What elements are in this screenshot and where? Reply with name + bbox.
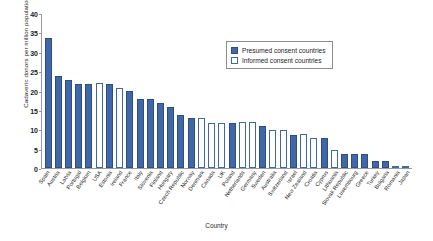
- bar-czech-republic: [177, 115, 184, 168]
- bar-slot: [166, 14, 176, 168]
- bar-slot: [268, 14, 278, 168]
- bar-slovak-republic: [341, 154, 348, 168]
- bar-germany: [249, 122, 256, 168]
- y-tick-mark: [39, 130, 42, 131]
- bar-series: [42, 14, 412, 168]
- bar-romania: [392, 166, 399, 168]
- bar-slot: [125, 14, 135, 168]
- bar-estonia: [106, 84, 113, 168]
- y-tick-label: 30: [30, 49, 38, 56]
- bar-slot: [84, 14, 94, 168]
- y-tick-label: 15: [30, 107, 38, 114]
- bar-slot: [247, 14, 257, 168]
- bar-france: [126, 91, 133, 168]
- y-tick-label: 5: [34, 146, 38, 153]
- legend-label-presumed: Presumed consent countries: [242, 47, 326, 54]
- bar-finland: [157, 103, 164, 168]
- bar-slot: [360, 14, 370, 168]
- bar-japan: [402, 166, 409, 168]
- bar-switzerland: [280, 130, 287, 168]
- y-tick-mark: [39, 72, 42, 73]
- bar-slot: [237, 14, 247, 168]
- bar-slot: [94, 14, 104, 168]
- bar-austria: [55, 76, 62, 168]
- bar-slot: [207, 14, 217, 168]
- bar-italy: [137, 99, 144, 168]
- y-axis-title: Cadaveric donors per million population,…: [22, 0, 29, 124]
- bar-turkey: [372, 161, 379, 168]
- bar-slot: [390, 14, 400, 168]
- bar-australia: [269, 130, 276, 168]
- bar-poland: [229, 123, 236, 168]
- y-tick-mark: [39, 169, 42, 170]
- y-tick-mark: [39, 14, 42, 15]
- bar-slot: [115, 14, 125, 168]
- bar-slot: [309, 14, 319, 168]
- bar-slot: [186, 14, 196, 168]
- bar-slot: [145, 14, 155, 168]
- y-tick-mark: [39, 150, 42, 151]
- legend-item-presumed: Presumed consent countries: [231, 45, 326, 55]
- bar-latvia: [65, 80, 72, 168]
- bar-luxembourg: [351, 154, 358, 168]
- bar-slot: [217, 14, 227, 168]
- bar-israel: [290, 135, 297, 168]
- bar-slot: [298, 14, 308, 168]
- bar-slot: [339, 14, 349, 168]
- cadaveric-donors-bar-chart: Cadaveric donors per million population,…: [0, 0, 433, 241]
- bar-ireland: [116, 88, 123, 168]
- bar-slot: [227, 14, 237, 168]
- y-tick-mark: [39, 111, 42, 112]
- bar-canada: [208, 123, 215, 168]
- bar-slot: [258, 14, 268, 168]
- bar-croatia: [310, 138, 317, 168]
- y-tick-label: 35: [30, 30, 38, 37]
- legend-item-informed: Informed consent countries: [231, 55, 326, 65]
- y-tick-mark: [39, 33, 42, 34]
- bar-slot: [401, 14, 411, 168]
- x-axis-title: Country: [0, 222, 433, 229]
- bar-slot: [319, 14, 329, 168]
- bar-lithuania: [331, 150, 338, 168]
- y-tick-label: 25: [30, 69, 38, 76]
- bar-spain: [45, 38, 52, 168]
- bar-bulgaria: [382, 161, 389, 168]
- bar-slot: [196, 14, 206, 168]
- bar-slot: [350, 14, 360, 168]
- bar-portugal: [75, 84, 82, 168]
- bar-slot: [53, 14, 63, 168]
- y-tick-label: 0: [34, 166, 38, 173]
- bar-hungary: [167, 107, 174, 168]
- bar-slot: [329, 14, 339, 168]
- bar-belgium: [85, 84, 92, 168]
- legend-label-informed: Informed consent countries: [242, 57, 322, 64]
- bar-slot: [43, 14, 53, 168]
- legend-swatch-informed-icon: [231, 57, 238, 64]
- bar-denmark: [198, 118, 205, 168]
- bar-slot: [176, 14, 186, 168]
- y-tick-label: 20: [30, 88, 38, 95]
- bar-slot: [155, 14, 165, 168]
- bar-greece: [361, 154, 368, 168]
- bar-cyprus: [321, 138, 328, 168]
- bar-slot: [74, 14, 84, 168]
- bar-slot: [380, 14, 390, 168]
- plot-area: 0510152025303540: [41, 14, 412, 169]
- chart-legend: Presumed consent countries Informed cons…: [226, 41, 333, 69]
- bar-slot: [135, 14, 145, 168]
- bar-slot: [63, 14, 73, 168]
- y-tick-label: 40: [30, 11, 38, 18]
- bar-slot: [104, 14, 114, 168]
- y-tick-mark: [39, 53, 42, 54]
- bar-sweden: [259, 126, 266, 168]
- bar-slot: [370, 14, 380, 168]
- bar-slot: [288, 14, 298, 168]
- bar-uk: [218, 123, 225, 168]
- bar-netherlands: [239, 122, 246, 168]
- bar-slovenia: [147, 99, 154, 168]
- y-tick-label: 10: [30, 127, 38, 134]
- x-axis-tick-labels: SpainAustriaLatviaPortugalBelgiumUSAEsto…: [42, 170, 412, 228]
- bar-slot: [278, 14, 288, 168]
- bar-norway: [188, 118, 195, 168]
- bar-usa: [96, 83, 103, 168]
